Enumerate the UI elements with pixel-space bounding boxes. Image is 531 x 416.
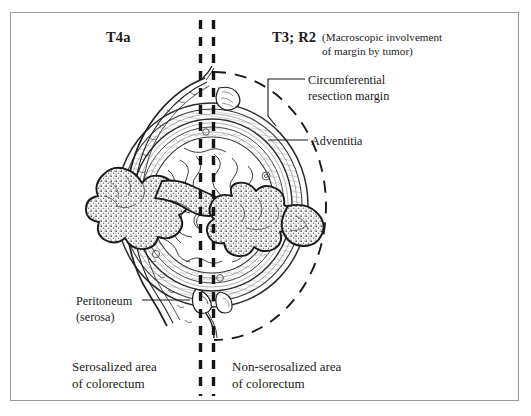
anatomical-illustration <box>0 0 531 416</box>
figure-container: T4a T3; R2 (Macroscopic involvement of m… <box>0 0 531 416</box>
caption-serosalized-area: Serosalized area of colorectum <box>72 358 157 393</box>
label-macroscopic-note: (Macroscopic involvement of margin by tu… <box>322 30 442 58</box>
label-t4a: T4a <box>106 29 131 46</box>
caption-non-serosalized-area: Non-serosalized area of colorectum <box>232 358 341 393</box>
label-t3-r2: T3; R2 <box>272 29 316 46</box>
label-circumferential-resection-margin: Circumferential resection margin <box>308 73 389 105</box>
label-adventitia: Adventitia <box>311 134 362 148</box>
label-peritoneum-serosa: Peritoneum (serosa) <box>76 293 132 326</box>
peritoneal-remnant-right <box>216 87 240 110</box>
crm-leader-line <box>268 79 305 126</box>
